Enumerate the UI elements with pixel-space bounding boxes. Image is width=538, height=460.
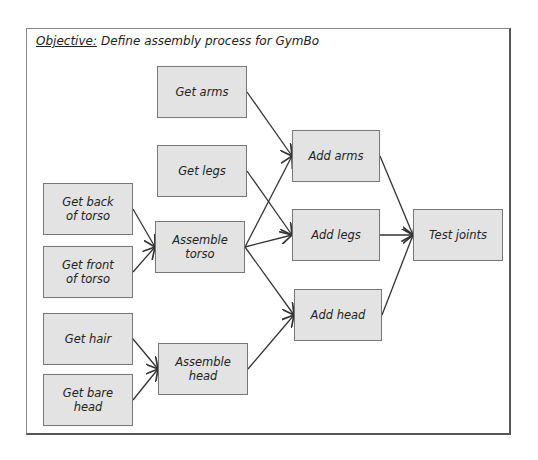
node-assemble-torso: Assemble torso	[155, 221, 245, 273]
edge-assemble-torso-to-add-head	[245, 247, 294, 315]
edge-get-arms-to-add-arms	[247, 92, 292, 156]
node-get-legs: Get legs	[157, 145, 247, 197]
edge-get-legs-to-add-legs	[247, 171, 292, 235]
node-test-joints: Test joints	[413, 209, 503, 261]
edge-assemble-head-to-add-head	[248, 315, 294, 369]
edge-get-hair-to-assemble-head	[133, 339, 158, 369]
node-get-front: Get front of torso	[43, 246, 133, 298]
node-get-bare-head: Get bare head	[43, 374, 133, 426]
edge-add-arms-to-test-joints	[380, 156, 413, 235]
edge-get-bare-head-to-assemble-head	[133, 369, 158, 400]
node-get-arms: Get arms	[157, 66, 247, 118]
edge-add-head-to-test-joints	[382, 235, 413, 315]
node-add-arms: Add arms	[292, 130, 380, 182]
node-add-legs: Add legs	[292, 209, 380, 261]
edge-assemble-torso-to-add-legs	[245, 235, 292, 247]
node-assemble-head: Assemble head	[158, 343, 248, 395]
edge-get-front-to-assemble-torso	[133, 247, 155, 272]
node-get-back: Get back of torso	[43, 183, 133, 235]
edge-get-back-to-assemble-torso	[133, 209, 155, 247]
node-get-hair: Get hair	[43, 313, 133, 365]
node-add-head: Add head	[294, 289, 382, 341]
edge-assemble-torso-to-add-arms	[245, 156, 292, 247]
